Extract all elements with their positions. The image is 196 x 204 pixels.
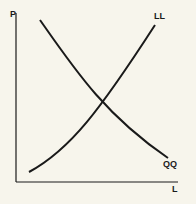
x-axis-label: L bbox=[172, 185, 178, 194]
ll-curve bbox=[29, 25, 155, 172]
ll-curve-label: LL bbox=[154, 12, 165, 21]
qq-curve bbox=[40, 20, 168, 158]
y-axis-label: P bbox=[10, 10, 16, 19]
chart-canvas bbox=[0, 0, 196, 204]
qq-curve-label: QQ bbox=[163, 160, 177, 169]
